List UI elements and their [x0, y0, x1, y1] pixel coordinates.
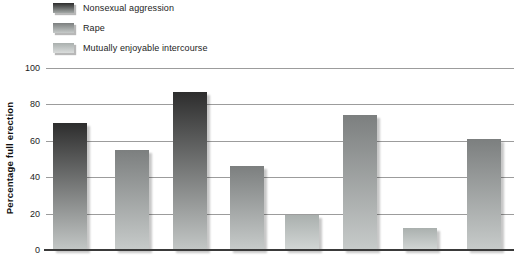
- x-axis-line: [44, 249, 514, 251]
- legend-color-swatch-icon: [53, 3, 74, 13]
- legend-label: Nonsexual aggression: [83, 3, 174, 13]
- figure-bar-chart: Nonsexual aggressionRapeMutually enjoyab…: [0, 0, 520, 264]
- gridline: [46, 68, 514, 69]
- bar: [173, 92, 207, 250]
- bar: [53, 123, 87, 250]
- legend-item: Rape: [53, 22, 105, 34]
- bar: [403, 228, 437, 250]
- y-axis-title: Percentage full erection: [4, 102, 15, 215]
- legend-label: Rape: [83, 23, 105, 33]
- legend-item: Mutually enjoyable intercourse: [53, 42, 208, 54]
- bar: [343, 115, 377, 250]
- y-tick-label: 60: [8, 135, 40, 147]
- legend-color-swatch-icon: [53, 23, 74, 33]
- gridline: [46, 141, 514, 142]
- bar: [115, 150, 149, 250]
- legend-item: Nonsexual aggression: [53, 2, 174, 14]
- bar: [230, 166, 264, 250]
- y-tick-label: 40: [8, 171, 40, 183]
- y-tick-label: 80: [8, 98, 40, 110]
- legend-color-swatch-icon: [53, 43, 74, 53]
- legend-label: Mutually enjoyable intercourse: [83, 43, 208, 53]
- bar: [285, 215, 319, 250]
- y-tick-label: 0: [8, 244, 40, 256]
- gridline: [46, 104, 514, 105]
- y-tick-label: 20: [8, 208, 40, 220]
- y-tick-label: 100: [8, 62, 40, 74]
- bar: [467, 139, 501, 250]
